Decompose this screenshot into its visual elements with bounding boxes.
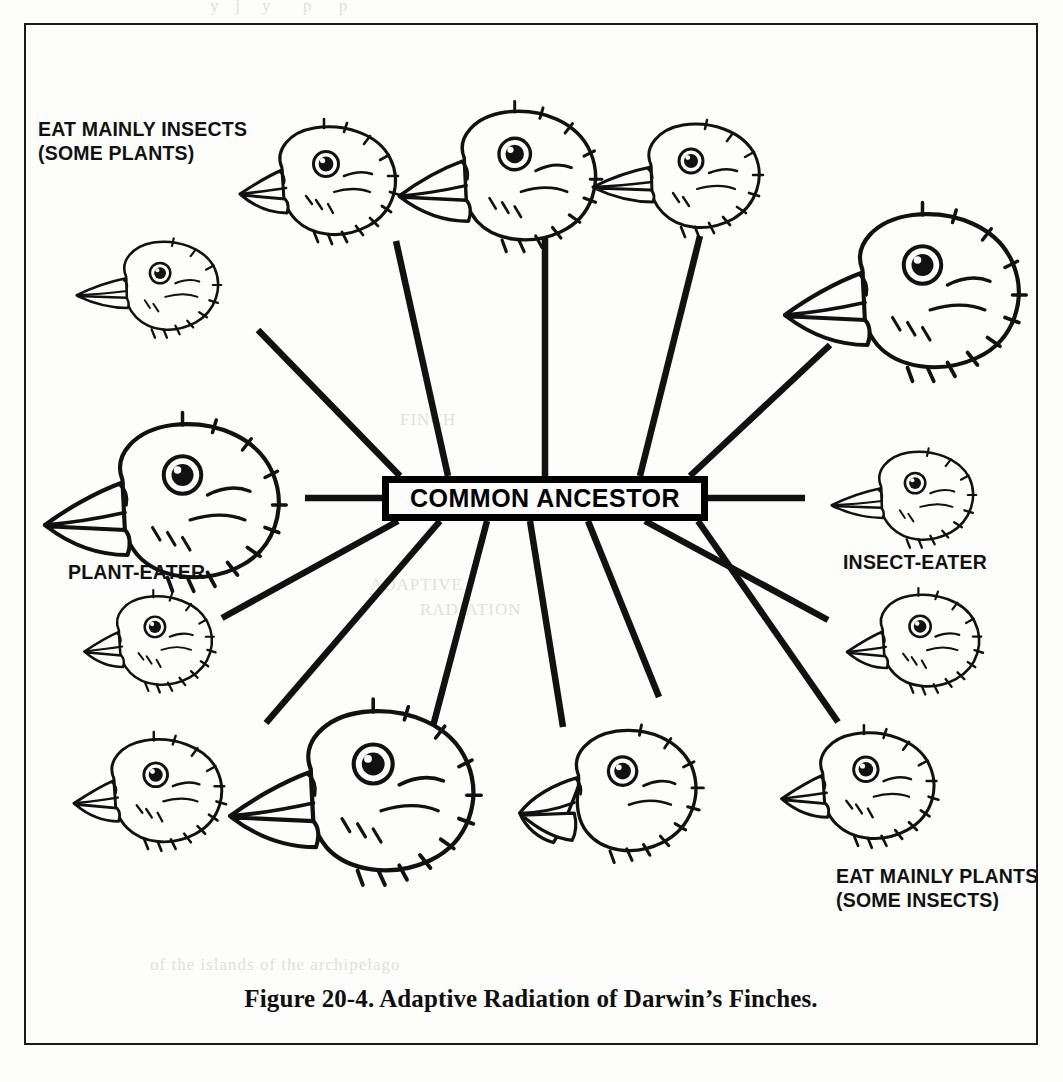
scanned-page: y j y p p ADAPTIVE RADIATION FINCH of th… bbox=[0, 0, 1063, 1082]
label-eat-mainly-plants-line1: EAT MAINLY PLANTS bbox=[836, 864, 1038, 888]
common-ancestor-label: COMMON ANCESTOR bbox=[410, 484, 680, 513]
finch-head-finch-10 bbox=[74, 732, 226, 851]
finch-head-finch-5 bbox=[77, 238, 222, 337]
figure-caption: Figure 20-4. Adaptive Radiation of Darwi… bbox=[24, 985, 1038, 1013]
branch-line bbox=[698, 521, 838, 722]
finch-head-finch-8 bbox=[84, 590, 215, 693]
branch-line bbox=[396, 241, 448, 476]
branch-line bbox=[258, 330, 400, 476]
branch-line bbox=[690, 345, 830, 476]
label-eat-mainly-insects-line2: (SOME PLANTS) bbox=[38, 141, 247, 165]
finch-head-finch-1 bbox=[240, 119, 400, 244]
branch-line bbox=[640, 236, 700, 476]
common-ancestor-box: COMMON ANCESTOR bbox=[382, 476, 708, 521]
finch-head-finch-13 bbox=[782, 725, 939, 848]
branch-line bbox=[530, 521, 563, 727]
branch-line bbox=[432, 521, 487, 730]
branch-line bbox=[266, 521, 440, 723]
finch-head-finch-3 bbox=[593, 120, 763, 237]
label-plant-eater: PLANT-EATER bbox=[68, 560, 205, 584]
finch-head-finch-7 bbox=[832, 448, 977, 547]
label-eat-mainly-plants-line2: (SOME INSECTS) bbox=[836, 888, 1038, 912]
finch-head-finch-9 bbox=[847, 588, 983, 694]
finch-head-finch-12 bbox=[520, 725, 704, 863]
label-insect-eater: INSECT-EATER bbox=[843, 550, 987, 574]
branch-line bbox=[645, 521, 828, 620]
common-ancestor-box-inner: COMMON ANCESTOR bbox=[388, 482, 702, 515]
label-eat-mainly-plants: EAT MAINLY PLANTS (SOME INSECTS) bbox=[836, 864, 1038, 913]
label-eat-mainly-insects: EAT MAINLY INSECTS (SOME PLANTS) bbox=[38, 117, 247, 166]
branch-line bbox=[588, 521, 659, 697]
finch-head-finch-11 bbox=[230, 699, 481, 885]
label-eat-mainly-insects-line1: EAT MAINLY INSECTS bbox=[38, 117, 247, 141]
finch-head-finch-2 bbox=[399, 102, 602, 252]
